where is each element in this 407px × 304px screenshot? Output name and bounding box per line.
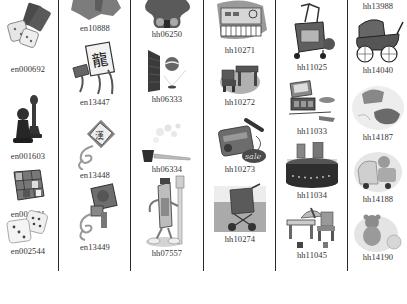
toy-keyboard-icon <box>211 0 269 44</box>
item-code-label: en10888 <box>80 23 110 33</box>
dragon-kite-icon: 龍 <box>72 40 118 96</box>
item-code-label: hh06250 <box>152 29 182 39</box>
column-divider <box>275 0 276 271</box>
item-code-label: en13449 <box>80 242 110 252</box>
svg-text:漢: 漢 <box>95 130 104 141</box>
catalog-item[interactable]: en001603 <box>0 94 56 161</box>
catalog-item[interactable]: en000692 <box>0 0 56 74</box>
catalog-page: en000692 en001603 <box>0 0 407 304</box>
item-code-label: hh10274 <box>225 234 255 244</box>
item-code-label: hh10271 <box>225 45 255 55</box>
chess-pieces-icon <box>8 94 48 149</box>
item-code-label: hh11025 <box>297 62 327 72</box>
toothpaste-character-icon <box>140 172 194 250</box>
smoking-pipe-icon <box>138 122 196 164</box>
dice-and-cards-icon <box>3 0 53 62</box>
cosmetic-set-icon <box>285 76 339 126</box>
catalog-item[interactable]: hh06250 <box>132 0 202 39</box>
column-divider <box>203 0 204 271</box>
column-divider <box>347 0 348 271</box>
catalog-item[interactable]: hh07557 <box>132 172 202 258</box>
character-kite-icon: 漢 <box>71 116 119 170</box>
catalog-item[interactable]: en13449 <box>60 182 130 252</box>
item-code-label: en13448 <box>80 170 110 180</box>
item-code-label: hh11033 <box>297 126 327 136</box>
bird-kite-icon <box>71 182 119 242</box>
svg-text:龍: 龍 <box>91 50 110 71</box>
catalog-item[interactable]: hh14187 <box>349 82 407 142</box>
catalog-item[interactable]: en002544 <box>0 210 56 256</box>
gray-splash-icon <box>65 0 125 22</box>
item-code-label: en002544 <box>11 246 45 256</box>
hat-box-icon <box>283 142 341 190</box>
item-code-label: hh14190 <box>363 252 393 262</box>
catalog-item[interactable]: hh14040 <box>349 16 407 75</box>
vintage-pram-icon <box>351 16 405 64</box>
item-code-label: en000692 <box>11 64 45 74</box>
catalog-item[interactable]: hh13988 <box>349 1 407 11</box>
teddy-bear-icon <box>142 0 192 28</box>
catalog-item[interactable]: hh11033 <box>277 76 347 136</box>
catalog-item[interactable]: hh10274 <box>205 182 275 244</box>
item-code-label: hh11034 <box>297 190 327 200</box>
item-code-label: hh14040 <box>363 65 393 75</box>
baby-shoes-icon <box>350 82 406 132</box>
column-divider <box>58 0 59 271</box>
ball-bounce-wall-icon <box>142 46 192 94</box>
column-divider <box>130 0 131 271</box>
rubiks-cube-icon <box>8 166 48 206</box>
catalog-item[interactable]: hh11025 <box>277 2 347 72</box>
catalog-item[interactable]: sale hh10273 <box>205 116 275 174</box>
item-code-label: hh10272 <box>225 97 255 107</box>
item-code-label: en13447 <box>80 97 110 107</box>
catalog-item[interactable]: hh11034 <box>277 142 347 200</box>
catalog-item[interactable]: hh06334 <box>132 122 202 174</box>
dice-pair-icon <box>4 210 52 244</box>
play-table-set-icon <box>285 204 339 250</box>
walker-cart-icon <box>285 2 339 62</box>
item-code-label: hh14188 <box>363 194 393 204</box>
item-code-label: hh14187 <box>363 132 393 142</box>
toy-car-bear-icon <box>352 150 404 194</box>
catalog-item[interactable]: hh06333 <box>132 46 202 104</box>
item-code-label: hh11045 <box>297 250 327 260</box>
item-code-label: hh06333 <box>152 94 182 104</box>
teddy-with-ball-icon <box>352 212 404 252</box>
svg-text:sale: sale <box>245 152 261 161</box>
catalog-item[interactable]: hh10272 <box>205 60 275 107</box>
catalog-item[interactable]: hh10271 <box>205 0 275 55</box>
kids-table-chair-icon <box>216 60 264 96</box>
catalog-item[interactable]: hh14188 <box>349 150 407 204</box>
catalog-item[interactable]: hh14190 <box>349 212 407 262</box>
karaoke-sale-icon: sale <box>212 116 268 166</box>
item-code-label: hh13988 <box>363 1 393 11</box>
catalog-item[interactable]: hh11045 <box>277 204 347 260</box>
catalog-item[interactable]: en10888 <box>60 0 130 33</box>
catalog-item[interactable]: 漢 en13448 <box>60 116 130 180</box>
stroller-icon <box>212 182 268 234</box>
catalog-item[interactable]: 龍 en13447 <box>60 40 130 107</box>
item-code-label: en001603 <box>11 151 45 161</box>
